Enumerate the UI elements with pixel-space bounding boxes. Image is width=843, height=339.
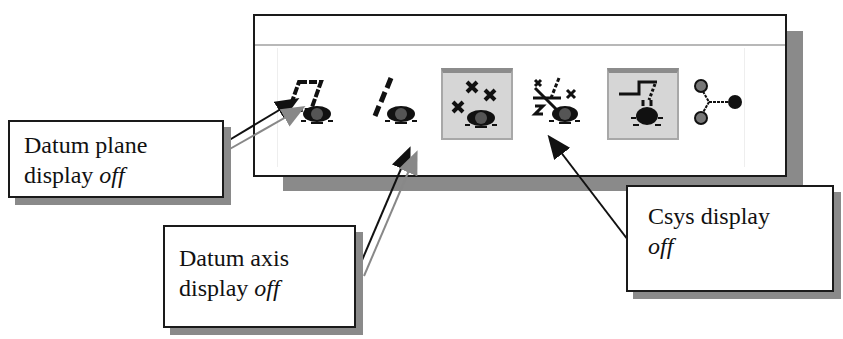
callout-csys-line1: Csys display (648, 201, 818, 231)
network-display-button[interactable] (683, 68, 755, 140)
datum-plane-eye-icon (287, 76, 343, 132)
datum-plane-display-button[interactable] (279, 68, 351, 140)
callout-datum-plane-line2: display off (24, 160, 208, 190)
callout-datum-axis: Datum axis display off (163, 225, 356, 328)
datum-point-display-button[interactable] (441, 68, 513, 140)
csys-display-button[interactable] (523, 68, 595, 140)
datum-axis-eye-icon (369, 76, 425, 132)
toolbar-top-separator (255, 44, 785, 46)
callout-csys-line2: off (648, 231, 818, 261)
network-nodes-icon (691, 76, 747, 132)
callout-datum-plane: Datum plane display off (8, 120, 224, 198)
callout-csys: Csys display off (626, 185, 834, 292)
toolbar-grip (277, 48, 278, 167)
annotation-eye-icon (615, 78, 671, 134)
datum-point-eye-icon (449, 78, 505, 134)
annotation-display-button[interactable] (607, 68, 679, 140)
callout-datum-plane-line1: Datum plane (24, 130, 208, 160)
display-toolbar (253, 14, 787, 177)
callout-datum-axis-line2: display off (179, 273, 340, 303)
csys-eye-icon (531, 76, 587, 132)
callout-datum-axis-line1: Datum axis (179, 243, 340, 273)
datum-axis-display-button[interactable] (361, 68, 433, 140)
